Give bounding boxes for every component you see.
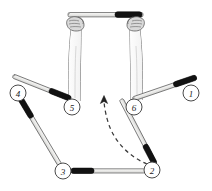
motion-diagram: 1 2 3 4 5 6 <box>0 0 212 191</box>
arm-right <box>130 30 142 101</box>
diagram-canvas: 1 2 3 4 5 6 <box>0 0 212 191</box>
marker-4[interactable]: 4 <box>10 85 26 101</box>
bar-top-held <box>68 12 143 18</box>
marker-5[interactable]: 5 <box>64 99 80 115</box>
marker-3-label: 3 <box>60 167 66 177</box>
marker-6[interactable]: 6 <box>126 99 142 115</box>
marker-2[interactable]: 2 <box>144 162 160 178</box>
arm-left <box>69 30 81 101</box>
hand-left <box>67 17 84 31</box>
marker-6-label: 6 <box>132 103 137 113</box>
marker-1[interactable]: 1 <box>183 85 199 101</box>
marker-5-label: 5 <box>70 103 75 113</box>
marker-4-label: 4 <box>16 89 21 99</box>
hand-right <box>127 17 144 31</box>
marker-1-label: 1 <box>189 89 194 99</box>
marker-2-label: 2 <box>150 166 155 176</box>
arm-right-fill <box>130 30 142 101</box>
bar-bottom-grip <box>71 168 94 173</box>
bar-bottom <box>71 168 145 173</box>
background <box>0 0 212 191</box>
marker-3[interactable]: 3 <box>55 163 71 179</box>
